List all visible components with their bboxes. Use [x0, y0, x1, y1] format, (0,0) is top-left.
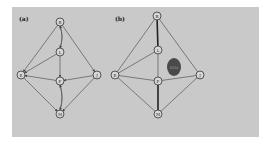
blob-label: DYM [170, 66, 179, 70]
edge-left-bottom [24, 78, 57, 111]
edge-left-bottom [118, 78, 155, 112]
node-left: E [111, 71, 119, 79]
blob-region: DYM [167, 58, 181, 76]
figure-panel: (a) (b) RLEFJM DYMRLEFJM [12, 7, 259, 137]
panel-b-label: (b) [115, 15, 125, 22]
edge-right-center [64, 76, 93, 81]
node-label: F [157, 79, 160, 84]
edge-center-left [25, 76, 56, 81]
node-label: L [59, 50, 62, 55]
panel-b-graph: DYMRLEFJM [111, 12, 204, 118]
node-top: R [56, 18, 64, 26]
node-right: J [93, 71, 101, 79]
node-label: E [20, 73, 23, 78]
node-bottom: M [56, 110, 64, 118]
edge-top-left [23, 25, 57, 72]
node-label: M [58, 112, 62, 117]
edge-left-center [119, 76, 154, 81]
edge-center-right [162, 76, 196, 81]
node-label: E [114, 73, 117, 78]
edge-top-upper [157, 20, 158, 46]
panel-a-graph: RLEFJM [17, 18, 101, 118]
edge-right-bottom [161, 78, 197, 112]
node-label: J [95, 73, 98, 78]
node-center: F [154, 77, 162, 85]
node-left: E [17, 71, 25, 79]
node-upper: L [154, 46, 162, 54]
panel-a-label: (a) [19, 15, 29, 22]
node-center: F [56, 77, 64, 85]
edge-top-left [117, 19, 154, 71]
node-label: M [156, 112, 160, 117]
node-label: L [157, 48, 160, 53]
node-top: R [153, 12, 161, 20]
edge-bottom-center [60, 85, 62, 110]
node-upper: L [56, 48, 64, 56]
node-label: F [59, 79, 62, 84]
node-right: J [196, 71, 204, 79]
edge-upper-top [60, 26, 62, 48]
edge-right-bottom [63, 78, 94, 111]
node-label: J [198, 73, 201, 78]
node-bottom: M [154, 110, 162, 118]
diagram-canvas: (a) (b) RLEFJM DYMRLEFJM [12, 7, 259, 137]
edge-top-right [62, 25, 94, 71]
